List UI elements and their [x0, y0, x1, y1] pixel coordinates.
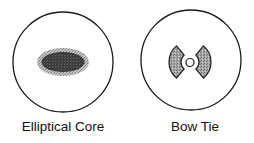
bow-tie-fiber	[141, 10, 241, 110]
elliptical-core-label: Elliptical Core	[22, 119, 105, 135]
elliptical-core-fiber	[13, 12, 113, 112]
circular-core	[186, 59, 194, 67]
bow-tie-label: Bow Tie	[171, 119, 219, 135]
elliptical-core	[42, 53, 84, 72]
